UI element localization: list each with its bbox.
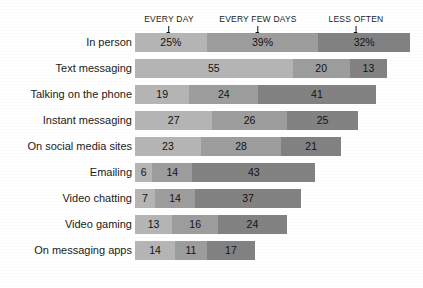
bar-segment: 39% <box>207 33 319 52</box>
stacked-bar: 192441 <box>135 85 376 104</box>
bar-segment: 16 <box>172 215 218 234</box>
stacked-bar: 131624 <box>135 215 287 234</box>
stacked-bar: 141117 <box>135 241 255 260</box>
bar-value-label: 24 <box>218 85 230 104</box>
category-label: On social media sites <box>27 137 132 156</box>
bar-segment: 14 <box>155 189 195 208</box>
bar-value-label: 20 <box>315 59 327 78</box>
bar-value-label: 21 <box>305 137 317 156</box>
bar-value-label: 28 <box>235 137 247 156</box>
chart-row: Video gaming131624 <box>0 215 423 234</box>
bar-value-label: 27 <box>168 111 180 130</box>
bar-segment: 25 <box>287 111 359 130</box>
bar-segment: 23 <box>135 137 201 156</box>
category-label: Talking on the phone <box>30 85 132 104</box>
chart-row: Instant messaging272625 <box>0 111 423 130</box>
stacked-bar: 61443 <box>135 163 315 182</box>
bar-segment: 7 <box>135 189 155 208</box>
bar-segment: 20 <box>293 59 350 78</box>
bar-segment: 55 <box>135 59 293 78</box>
bar-segment: 24 <box>218 215 287 234</box>
bar-segment: 21 <box>281 137 341 156</box>
stacked-bar: 25%39%32% <box>135 33 410 52</box>
bar-value-label: 26 <box>244 111 256 130</box>
bar-value-label: 7 <box>142 189 148 208</box>
bar-value-label: 25 <box>317 111 329 130</box>
category-label: Video gaming <box>65 215 132 234</box>
bar-value-label: 39% <box>252 33 273 52</box>
stacked-bar: 552013 <box>135 59 387 78</box>
bar-value-label: 32% <box>354 33 375 52</box>
chart-row: Talking on the phone192441 <box>0 85 423 104</box>
category-label: Text messaging <box>56 59 132 78</box>
bar-segment: 32% <box>318 33 410 52</box>
category-label: Video chatting <box>62 189 132 208</box>
chart-row: On messaging apps141117 <box>0 241 423 260</box>
stacked-bar: 71437 <box>135 189 301 208</box>
chart-row: In person25%39%32% <box>0 33 423 52</box>
bar-value-label: 13 <box>148 215 160 234</box>
stacked-bar: 272625 <box>135 111 358 130</box>
bar-value-label: 16 <box>189 215 201 234</box>
bar-value-label: 41 <box>311 85 323 104</box>
bar-value-label: 14 <box>149 241 161 260</box>
bar-value-label: 24 <box>247 215 259 234</box>
stacked-bar: 232821 <box>135 137 341 156</box>
bar-segment: 37 <box>195 189 301 208</box>
bar-value-label: 6 <box>141 163 147 182</box>
chart-row: On social media sites232821 <box>0 137 423 156</box>
stacked-bar-chart: EVERY DAY EVERY FEW DAYS LESS OFTEN In p… <box>0 0 423 288</box>
bar-value-label: 23 <box>162 137 174 156</box>
bar-segment: 11 <box>175 241 207 260</box>
bar-value-label: 37 <box>242 189 254 208</box>
bar-value-label: 14 <box>169 189 181 208</box>
chart-row: Text messaging552013 <box>0 59 423 78</box>
bar-segment: 28 <box>201 137 281 156</box>
bar-value-label: 19 <box>156 85 168 104</box>
bar-segment: 17 <box>207 241 256 260</box>
bar-segment: 43 <box>192 163 315 182</box>
bar-segment: 14 <box>152 163 192 182</box>
chart-rows: In person25%39%32%Text messaging552013Ta… <box>0 0 423 288</box>
bar-value-label: 13 <box>363 59 375 78</box>
bar-segment: 27 <box>135 111 212 130</box>
category-label: On messaging apps <box>34 241 132 260</box>
category-label: In person <box>86 33 132 52</box>
chart-row: Video chatting71437 <box>0 189 423 208</box>
bar-value-label: 11 <box>185 241 196 260</box>
category-label: Instant messaging <box>43 111 132 130</box>
bar-segment: 26 <box>212 111 286 130</box>
bar-value-label: 25% <box>160 33 181 52</box>
bar-segment: 13 <box>135 215 172 234</box>
bar-segment: 19 <box>135 85 189 104</box>
bar-segment: 13 <box>350 59 387 78</box>
bar-segment: 6 <box>135 163 152 182</box>
bar-value-label: 14 <box>166 163 178 182</box>
bar-segment: 25% <box>135 33 207 52</box>
bar-segment: 14 <box>135 241 175 260</box>
bar-value-label: 43 <box>248 163 260 182</box>
bar-segment: 41 <box>258 85 375 104</box>
bar-value-label: 55 <box>208 59 220 78</box>
chart-row: Emailing61443 <box>0 163 423 182</box>
bar-value-label: 17 <box>225 241 237 260</box>
category-label: Emailing <box>90 163 132 182</box>
bar-segment: 24 <box>189 85 258 104</box>
